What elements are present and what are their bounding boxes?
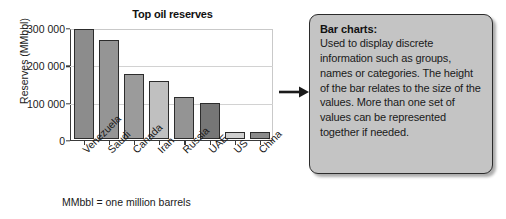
bar: [74, 29, 94, 140]
arrow-right-icon: [279, 85, 309, 99]
callout-body: Used to display discrete information suc…: [320, 36, 483, 140]
bar-chart-figure: Top oil reserves Reserves (MMbbl) 0100 0…: [0, 0, 284, 219]
y-axis-tick-label: 200 000: [27, 60, 65, 72]
plot-wrap: 0100 000200 000300 000 VenezuelaSaudiCan…: [70, 29, 273, 141]
bar: [124, 74, 144, 139]
bar-series: [72, 30, 272, 139]
y-axis-tick-label: 0: [59, 135, 65, 147]
y-axis-tick-mark: [66, 140, 70, 141]
y-axis-tick-label: 100 000: [27, 98, 65, 110]
callout-heading: Bar charts:: [320, 23, 483, 35]
y-axis-tick-mark: [66, 28, 70, 29]
chart-footnote: MMbbl = one million barrels: [62, 196, 191, 208]
y-axis-tick-mark: [66, 66, 70, 67]
chart-title: Top oil reserves: [70, 8, 275, 20]
bar: [174, 97, 194, 139]
y-axis-tick-mark: [66, 103, 70, 104]
callout-box: Bar charts: Used to display discrete inf…: [309, 14, 493, 174]
y-axis-tick-label: 300 000: [27, 23, 65, 35]
